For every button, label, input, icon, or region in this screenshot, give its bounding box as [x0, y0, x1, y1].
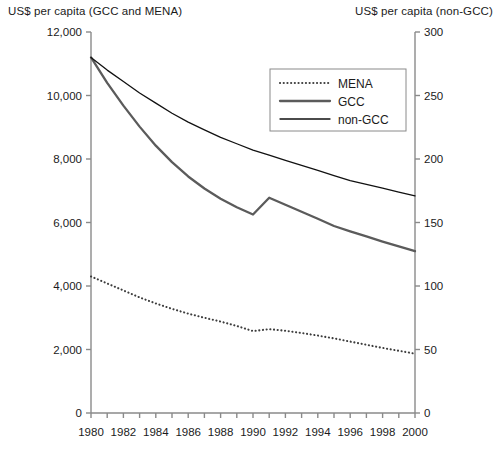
- x-axis-tick-label: 1988: [208, 426, 234, 438]
- legend-label-non-gcc: non-GCC: [338, 113, 389, 127]
- legend-label-gcc: GCC: [338, 95, 365, 109]
- right-axis-tick-label: 0: [424, 407, 430, 419]
- x-axis-tick-label: 1986: [175, 426, 201, 438]
- series-line-mena: [91, 276, 415, 353]
- left-axis-tick-label: 4,000: [53, 280, 82, 292]
- chart-figure: US$ per capita (GCC and MENA) US$ per ca…: [0, 0, 493, 452]
- x-axis-tick-label: 2000: [402, 426, 428, 438]
- left-axis-tick-label: 10,000: [47, 90, 82, 102]
- right-axis-tick-label: 50: [424, 344, 437, 356]
- left-axis-tick-label: 12,000: [47, 26, 82, 38]
- right-axis-tick-label: 250: [424, 90, 443, 102]
- left-axis-tick-label: 0: [76, 407, 82, 419]
- x-axis-tick-label: 1992: [273, 426, 299, 438]
- x-axis-tick-label: 1980: [78, 426, 104, 438]
- x-axis-tick-label: 1984: [143, 426, 169, 438]
- x-axis-tick-label: 1990: [240, 426, 266, 438]
- right-axis-tick-label: 150: [424, 217, 443, 229]
- plot-area: 02,0004,0006,0008,00010,00012,0000501001…: [0, 0, 493, 452]
- x-axis-tick-label: 1998: [370, 426, 396, 438]
- right-axis-tick-label: 100: [424, 280, 443, 292]
- left-axis-tick-label: 8,000: [53, 153, 82, 165]
- x-axis-tick-label: 1982: [111, 426, 137, 438]
- legend-box: MENAGCCnon-GCC: [270, 69, 406, 131]
- legend-label-mena: MENA: [338, 77, 373, 91]
- left-axis-tick-label: 6,000: [53, 217, 82, 229]
- right-axis-tick-label: 300: [424, 26, 443, 38]
- right-axis-tick-label: 200: [424, 153, 443, 165]
- left-axis-tick-label: 2,000: [53, 344, 82, 356]
- x-axis-tick-label: 1994: [305, 426, 331, 438]
- x-axis-tick-label: 1996: [337, 426, 363, 438]
